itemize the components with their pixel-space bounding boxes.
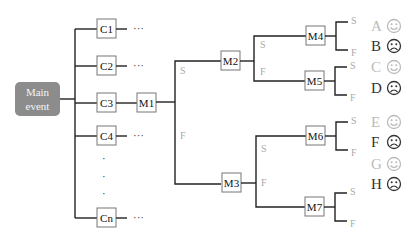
branch-label-f: F bbox=[260, 66, 266, 77]
continuation-ellipsis: ··· bbox=[133, 22, 144, 34]
branch-label-s: S bbox=[350, 186, 356, 197]
leaf-branch bbox=[336, 122, 348, 150]
branch-label-s: S bbox=[350, 60, 356, 71]
branch-label-s: S bbox=[260, 39, 266, 50]
outcome-letter: H bbox=[371, 176, 382, 192]
continuation-ellipsis: ··· bbox=[133, 59, 144, 71]
module-label: M4 bbox=[308, 30, 324, 42]
module-m6[interactable]: M6 bbox=[306, 126, 325, 145]
event-tree-diagram: Main event C1···C2···C3C4···Cn··· · · · … bbox=[0, 0, 417, 240]
branch-label-f: F bbox=[351, 147, 357, 158]
module-m4[interactable]: M4 bbox=[306, 26, 325, 45]
branch-label-f: F bbox=[350, 92, 356, 103]
branch-label-s: S bbox=[351, 15, 357, 26]
module-m3[interactable]: M3 bbox=[222, 173, 241, 192]
ellipsis-dot: · bbox=[102, 152, 106, 164]
leaf-branch bbox=[335, 193, 347, 221]
outcome-g: G bbox=[371, 156, 401, 172]
leaf-branch bbox=[335, 67, 347, 95]
outcome-letter: G bbox=[371, 156, 382, 172]
m1-branch bbox=[175, 61, 221, 184]
outcome-f: F bbox=[371, 134, 401, 150]
main-event-line2: event bbox=[26, 100, 50, 112]
smiley-icon bbox=[388, 61, 401, 74]
outcome-d: D bbox=[371, 80, 401, 96]
ellipsis-dot: · bbox=[102, 170, 106, 182]
cause-label: C2 bbox=[100, 60, 113, 72]
smiley-icon bbox=[388, 116, 401, 129]
outcome-letter: D bbox=[371, 80, 382, 96]
ellipsis-dot: · bbox=[102, 187, 106, 199]
outcome-h: H bbox=[371, 176, 401, 192]
cause-node-cn[interactable]: Cn bbox=[97, 208, 116, 227]
branch-label-s: S bbox=[351, 115, 357, 126]
outcome-a: A bbox=[371, 18, 401, 34]
branch-label-f: F bbox=[261, 177, 267, 188]
main-event-node[interactable]: Main event bbox=[15, 82, 60, 116]
cause-node-c4[interactable]: C4 bbox=[97, 126, 116, 145]
module-label: M5 bbox=[307, 75, 323, 87]
continuation-ellipsis: ··· bbox=[133, 211, 144, 223]
frown-icon bbox=[388, 136, 401, 149]
module-m2[interactable]: M2 bbox=[221, 51, 240, 70]
module-label: M7 bbox=[307, 201, 323, 213]
branch-label-s: S bbox=[180, 65, 186, 76]
cause-label: C1 bbox=[100, 23, 113, 35]
outcome-b: B bbox=[371, 38, 401, 54]
cause-node-c3[interactable]: C3 bbox=[97, 93, 116, 112]
branch-label-f: F bbox=[180, 130, 186, 141]
module-label: M2 bbox=[223, 55, 238, 67]
outcome-letter: C bbox=[371, 59, 381, 75]
outcome-e: E bbox=[371, 114, 401, 130]
module-m5[interactable]: M5 bbox=[305, 71, 324, 90]
cause-node-c2[interactable]: C2 bbox=[97, 56, 116, 75]
module-m7[interactable]: M7 bbox=[305, 197, 324, 216]
main-event-line1: Main bbox=[26, 86, 50, 98]
continuation-ellipsis: ··· bbox=[133, 129, 144, 141]
module-label: M3 bbox=[224, 177, 240, 189]
outcome-letter: E bbox=[371, 114, 380, 130]
module-m1[interactable]: M1 bbox=[137, 93, 156, 112]
frown-icon bbox=[388, 82, 401, 95]
smiley-icon bbox=[388, 158, 401, 171]
branch-label-f: F bbox=[350, 218, 356, 229]
branch-label-f: F bbox=[351, 47, 357, 58]
frown-icon bbox=[388, 40, 401, 53]
branch-label-s: S bbox=[261, 143, 267, 154]
module-label: M6 bbox=[308, 130, 324, 142]
outcome-letter: B bbox=[371, 38, 381, 54]
cause-label: Cn bbox=[100, 212, 113, 224]
cause-node-c1[interactable]: C1 bbox=[97, 19, 116, 38]
leaf-branch bbox=[336, 22, 348, 50]
frown-icon bbox=[388, 178, 401, 191]
cause-label: C4 bbox=[100, 130, 113, 142]
smiley-icon bbox=[388, 20, 401, 33]
cause-label: C3 bbox=[100, 97, 113, 109]
outcome-letter: A bbox=[371, 18, 382, 34]
outcome-letter: F bbox=[371, 134, 379, 150]
outcome-c: C bbox=[371, 59, 401, 75]
module-label: M1 bbox=[139, 97, 154, 109]
